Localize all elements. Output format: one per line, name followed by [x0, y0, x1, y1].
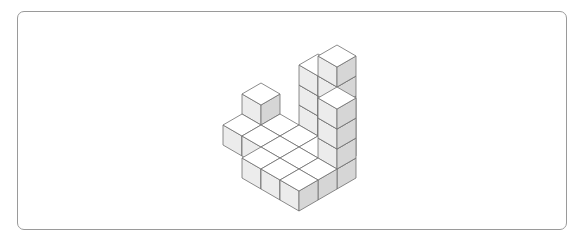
page-root — [0, 0, 581, 245]
content-border — [17, 11, 567, 230]
